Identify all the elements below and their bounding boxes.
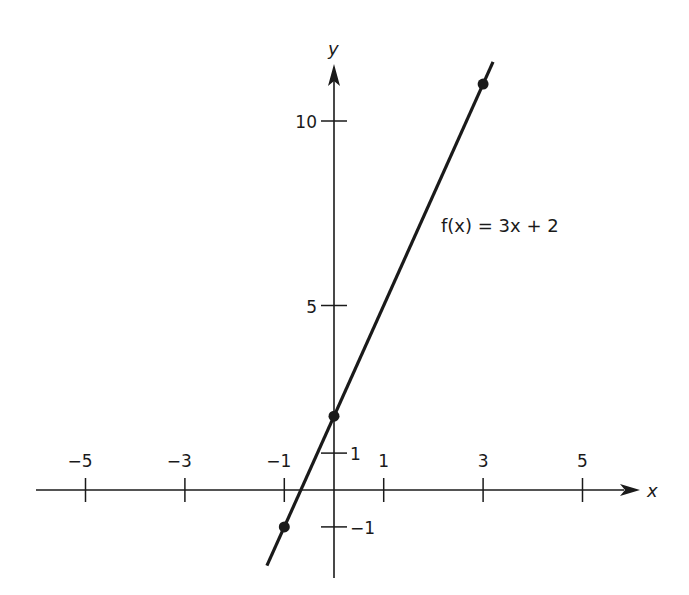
x-tick-label: −5	[67, 451, 92, 471]
y-tick-label: −1	[350, 518, 375, 538]
data-point	[279, 521, 290, 532]
x-tick-label: −1	[266, 451, 291, 471]
data-point	[478, 79, 489, 90]
x-axis-label: x	[646, 480, 658, 501]
x-tick-label: −3	[167, 451, 192, 471]
axes	[36, 64, 640, 578]
x-tick-label: 1	[378, 451, 389, 471]
function-graph: −5−3−11351051−1 x y f(x) = 3x + 2	[0, 0, 689, 595]
y-tick-label: 1	[350, 444, 361, 464]
ticks: −5−3−11351051−1	[67, 112, 587, 538]
function-label: f(x) = 3x + 2	[441, 215, 559, 236]
y-tick-label: 10	[295, 112, 317, 132]
x-tick-label: 5	[577, 451, 588, 471]
data-point	[329, 411, 340, 422]
y-axis-label: y	[327, 38, 339, 59]
y-tick-label: 5	[306, 297, 317, 317]
x-tick-label: 3	[478, 451, 489, 471]
